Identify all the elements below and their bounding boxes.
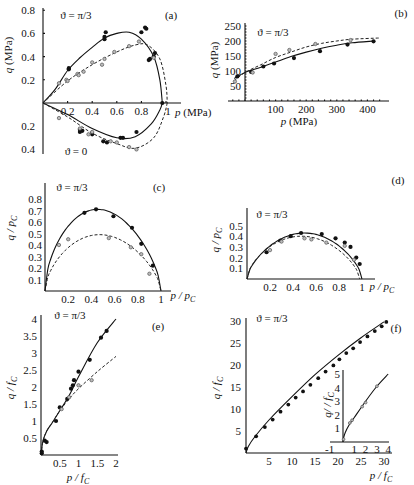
panel-label: (c) xyxy=(153,181,166,194)
y-tick-label: 25 xyxy=(230,337,242,349)
label-main: p / f xyxy=(66,471,86,483)
data-point-filled xyxy=(333,236,337,240)
x-axis-label-text: p / pC xyxy=(369,280,396,295)
y-tick-label: 2.5 xyxy=(23,364,37,376)
data-point-open xyxy=(361,405,364,408)
data-point-filled xyxy=(148,57,152,61)
label-subscript: C xyxy=(190,295,196,304)
data-point-open xyxy=(77,73,80,76)
data-point-open xyxy=(100,63,103,66)
data-point-open xyxy=(91,130,94,133)
data-point-filled xyxy=(134,130,138,134)
angle-annotation: ϑ = π/3 xyxy=(256,208,288,220)
y-tick-label: 5 xyxy=(236,425,242,437)
inset-x-tick-label: -1 xyxy=(325,443,334,455)
panel-label: (a) xyxy=(165,9,178,22)
data-point-filled xyxy=(111,214,115,218)
figure-canvas: 0.20.40.60.810.20.40.60.80.20.4p (MPa)q … xyxy=(0,0,414,485)
y-tick-label: 20 xyxy=(230,359,242,371)
x-axis-label-text: p / fC xyxy=(369,469,393,484)
data-point-filled xyxy=(121,136,125,140)
data-point-filled xyxy=(130,226,134,230)
data-point-filled xyxy=(309,383,313,387)
y-tick-label: 4 xyxy=(32,313,38,325)
y-tick-label: 0.4 xyxy=(21,143,35,155)
panel-f-inset: -1123412345q/ / fC xyxy=(321,368,410,455)
data-point-open xyxy=(115,141,118,144)
data-point-filled xyxy=(289,234,293,238)
x-tick-label: 25 xyxy=(356,455,368,467)
data-point-open xyxy=(288,48,291,51)
x-tick-label: 1 xyxy=(359,281,365,293)
x-tick-label: 5 xyxy=(266,455,272,467)
data-point-filled xyxy=(279,410,283,414)
angle-annotation: ϑ = π/3 xyxy=(56,181,88,193)
y-axis-label-text: q / pC xyxy=(209,227,224,253)
inset-background xyxy=(330,368,410,442)
y-tick-label: 0.2 xyxy=(28,262,42,274)
y-tick-label: 0.5 xyxy=(23,432,37,444)
label-main: p / f xyxy=(369,469,389,481)
data-point-open xyxy=(91,61,94,64)
data-point-filled xyxy=(45,440,49,444)
y-axis-label-text: q / fC xyxy=(210,376,225,399)
inset-y-tick-label: 2 xyxy=(335,409,341,421)
y-axis-label: q / fC xyxy=(4,376,19,399)
data-point-filled xyxy=(139,242,143,246)
x-tick-label: 0.2 xyxy=(61,293,75,305)
x-label-unit: (MPa) xyxy=(181,106,212,119)
data-point-filled xyxy=(264,250,268,254)
data-point-open xyxy=(351,419,354,422)
label-subscript: C xyxy=(10,376,19,382)
data-point-filled xyxy=(105,140,109,144)
inset-y-tick-label: 1 xyxy=(335,422,341,434)
data-point-open xyxy=(87,133,90,136)
data-point-open xyxy=(152,56,155,59)
angle-annotation-bottom: ϑ = 0 xyxy=(65,145,88,157)
data-point-filled xyxy=(105,329,109,333)
angle-annotation: ϑ = π/3 xyxy=(257,26,289,38)
data-point-filled xyxy=(373,329,377,333)
data-point-filled xyxy=(324,370,328,374)
data-point-filled xyxy=(366,335,370,339)
data-point-filled xyxy=(76,370,80,374)
data-point-filled xyxy=(151,264,155,268)
data-point-open xyxy=(90,379,93,382)
x-axis-label-text: p / pC xyxy=(170,289,197,304)
data-point-open xyxy=(78,127,81,130)
x-axis-label: p / pC xyxy=(170,289,197,304)
data-point-filled xyxy=(244,447,248,451)
data-point-filled xyxy=(235,74,239,78)
label-main: q / p xyxy=(4,220,16,240)
y-tick-label: 0.5 xyxy=(28,228,42,240)
data-point-open xyxy=(280,240,283,243)
data-point-open xyxy=(77,384,80,387)
x-axis-label: p / fC xyxy=(369,469,393,484)
data-point-open xyxy=(103,57,106,60)
data-point-open xyxy=(140,253,143,256)
x-tick-label: 200 xyxy=(298,103,315,115)
data-point-filled xyxy=(292,56,296,60)
data-point-filled xyxy=(301,390,305,394)
y-label-unit: (MPa) xyxy=(208,41,221,72)
y-tick-label: 3.5 xyxy=(23,330,37,342)
data-point-filled xyxy=(286,403,290,407)
y-tick-label: 10 xyxy=(230,403,242,415)
data-point-filled xyxy=(345,43,349,47)
x-tick-label: 0.2 xyxy=(263,281,277,293)
label-subscript: C xyxy=(389,286,395,295)
label-subscript: C xyxy=(387,475,393,484)
x-axis-label-text: p / fC xyxy=(66,471,90,485)
data-point-filled xyxy=(261,64,265,68)
y-axis-label: q / pC xyxy=(4,215,19,241)
data-point-open xyxy=(82,70,85,73)
y-tick-label: 3 xyxy=(32,347,38,359)
data-point-filled xyxy=(139,30,143,34)
data-point-filled xyxy=(371,39,375,43)
data-point-filled xyxy=(318,49,322,53)
y-tick-label: 0.2 xyxy=(229,252,243,264)
y-tick-label: 0.2 xyxy=(21,120,35,132)
data-point-open xyxy=(376,385,379,388)
y-tick-label: 2 xyxy=(32,381,38,393)
x-tick-label: 0.6 xyxy=(110,105,124,117)
